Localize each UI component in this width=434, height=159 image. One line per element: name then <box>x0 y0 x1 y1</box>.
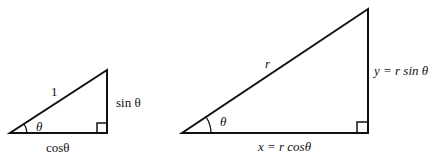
unit-angle-label: θ <box>36 119 43 134</box>
unit-adjacent-label: cosθ <box>46 140 70 155</box>
angle-arc <box>206 117 211 133</box>
general-opposite-label: y = r sin θ <box>372 63 429 78</box>
unit-opposite-label: sin θ <box>116 95 141 110</box>
unit-hypotenuse-label: 1 <box>51 84 58 99</box>
unit-triangle-outline <box>10 70 107 133</box>
right-angle-marker <box>357 122 368 133</box>
general-triangle <box>182 9 368 133</box>
general-hypotenuse-label: r <box>265 56 271 71</box>
general-adjacent-label: x = r cosθ <box>257 139 312 154</box>
right-angle-marker <box>97 123 107 133</box>
trig-triangles-diagram: 1 sin θ θ cosθ r y = r sin θ θ x = r cos… <box>0 0 434 159</box>
general-angle-label: θ <box>220 114 227 129</box>
angle-arc <box>24 124 27 133</box>
unit-triangle <box>10 70 107 133</box>
general-triangle-outline <box>182 9 368 133</box>
